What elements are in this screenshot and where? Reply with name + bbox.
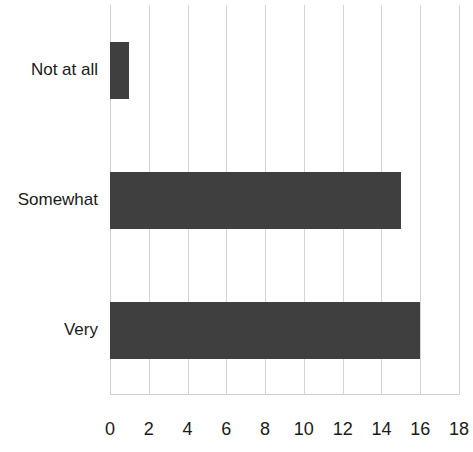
category-label: Very bbox=[0, 320, 98, 340]
gridline-18 bbox=[459, 5, 460, 395]
gridline-16 bbox=[420, 5, 421, 395]
x-tick-label: 10 bbox=[284, 418, 324, 440]
x-tick-label: 0 bbox=[90, 418, 130, 440]
bar bbox=[110, 302, 420, 359]
x-tick-label: 2 bbox=[129, 418, 169, 440]
bar bbox=[110, 42, 129, 99]
x-tick-label: 12 bbox=[323, 418, 363, 440]
x-tick-label: 14 bbox=[361, 418, 401, 440]
x-tick-label: 8 bbox=[245, 418, 285, 440]
x-tick-label: 6 bbox=[206, 418, 246, 440]
bar bbox=[110, 172, 401, 229]
x-tick-label: 4 bbox=[168, 418, 208, 440]
x-tick-label: 18 bbox=[439, 418, 473, 440]
category-label: Not at all bbox=[0, 60, 98, 80]
plot-area bbox=[110, 5, 459, 395]
x-axis-tick-labels: 024681012141618 bbox=[0, 418, 467, 452]
category-label: Somewhat bbox=[0, 190, 98, 210]
x-axis-baseline bbox=[110, 394, 460, 395]
x-tick-label: 16 bbox=[400, 418, 440, 440]
